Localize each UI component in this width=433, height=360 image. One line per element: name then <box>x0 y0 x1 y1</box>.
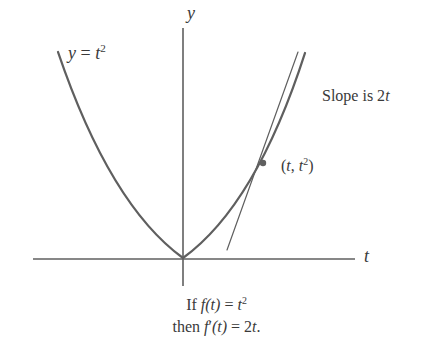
caption-line-2: then f′(t) = 2t. <box>0 318 433 336</box>
point-coordinates-label: (t, t2) <box>281 158 314 174</box>
parabola-derivative-figure: y t y = t2 Slope is 2t (t, t2) If f(t) =… <box>0 0 433 360</box>
slope-annotation-label: Slope is 2t <box>322 88 390 104</box>
caption2-word: then <box>172 318 204 335</box>
tangent-line <box>227 52 298 250</box>
caption1-equals: = <box>220 296 237 313</box>
curve-label-equals: = <box>76 43 95 63</box>
curve-label-lhs: y <box>68 43 76 63</box>
y-axis-label: y <box>187 4 195 22</box>
slope-label-text: Slope is 2 <box>322 87 385 104</box>
point-label-close-paren: ) <box>308 157 313 174</box>
parabola-curve <box>58 52 305 258</box>
caption1-exponent: 2 <box>242 295 247 306</box>
caption-line-1: If f(t) = t2 <box>0 296 433 314</box>
caption2-argument: (t) <box>212 318 227 335</box>
curve-equation-label: y = t2 <box>68 44 106 62</box>
caption2-equals: = 2 <box>227 318 252 335</box>
tangency-point-marker <box>260 160 266 166</box>
slope-label-variable: t <box>385 87 389 104</box>
caption2-period: . <box>257 318 261 335</box>
caption1-word: If <box>186 296 201 313</box>
caption1-argument: (t) <box>205 296 220 313</box>
point-label-separator: , <box>291 157 299 174</box>
figure-caption: If f(t) = t2 then f′(t) = 2t. <box>0 296 433 340</box>
t-axis-label: t <box>364 247 369 265</box>
curve-label-exponent: 2 <box>100 42 106 54</box>
